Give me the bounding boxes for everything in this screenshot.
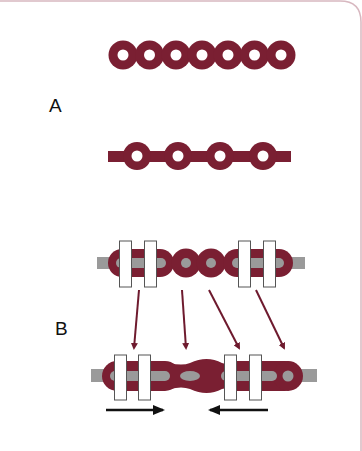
- panel-label-b: B: [55, 318, 68, 340]
- transition-arrows: [134, 290, 284, 348]
- diagram-canvas: [0, 0, 362, 451]
- figure: A B: [0, 0, 362, 451]
- panel-label-a: A: [49, 95, 62, 117]
